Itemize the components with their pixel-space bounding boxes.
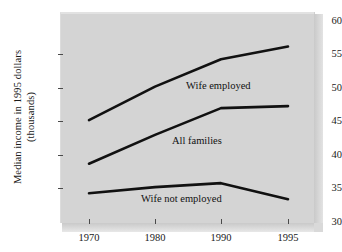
series-label-all-families: All families [172,135,222,146]
series-label-wife-employed: Wife employed [186,80,251,91]
series-lines [0,0,342,252]
chart-figure: Median income in 1995 dollars (thousands… [0,0,342,252]
series-label-wife-not-employed: Wife not employed [141,193,222,204]
